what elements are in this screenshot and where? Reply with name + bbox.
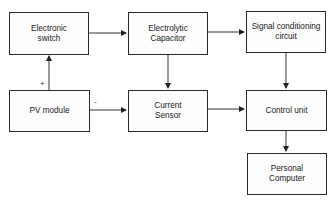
block-personal-computer: Personal Computer: [247, 153, 327, 195]
block-electronic-switch: Electronic switch: [9, 12, 89, 55]
block-label: Signal conditioning circuit: [252, 22, 321, 42]
block-signal-conditioning-circuit: Signal conditioning circuit: [246, 11, 326, 53]
block-label: Personal Computer: [269, 164, 305, 184]
block-label: Electrolytic Capacitor: [148, 24, 188, 44]
block-pv-module: PV module: [9, 90, 90, 132]
block-label: Current Sensor: [154, 101, 181, 121]
plus-terminal-label: +: [40, 79, 45, 88]
block-electrolytic-capacitor: Electrolytic Capacitor: [128, 12, 208, 55]
block-control-unit: Control unit: [246, 90, 327, 131]
block-label: Electronic switch: [31, 24, 67, 44]
minus-terminal-label: -: [94, 97, 97, 106]
block-label: Control unit: [266, 106, 308, 116]
block-label: PV module: [29, 106, 69, 116]
block-current-sensor: Current Sensor: [128, 90, 208, 132]
